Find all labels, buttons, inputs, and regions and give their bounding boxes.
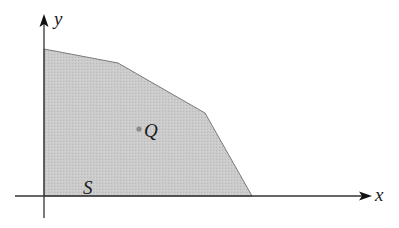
point-q-label: Q — [144, 120, 158, 141]
point-q-dot — [136, 126, 141, 131]
x-axis-label: x — [374, 184, 384, 205]
diagram-canvas: Q S x y — [0, 0, 399, 228]
region-s-label: S — [83, 177, 93, 198]
y-axis-label: y — [52, 8, 63, 29]
